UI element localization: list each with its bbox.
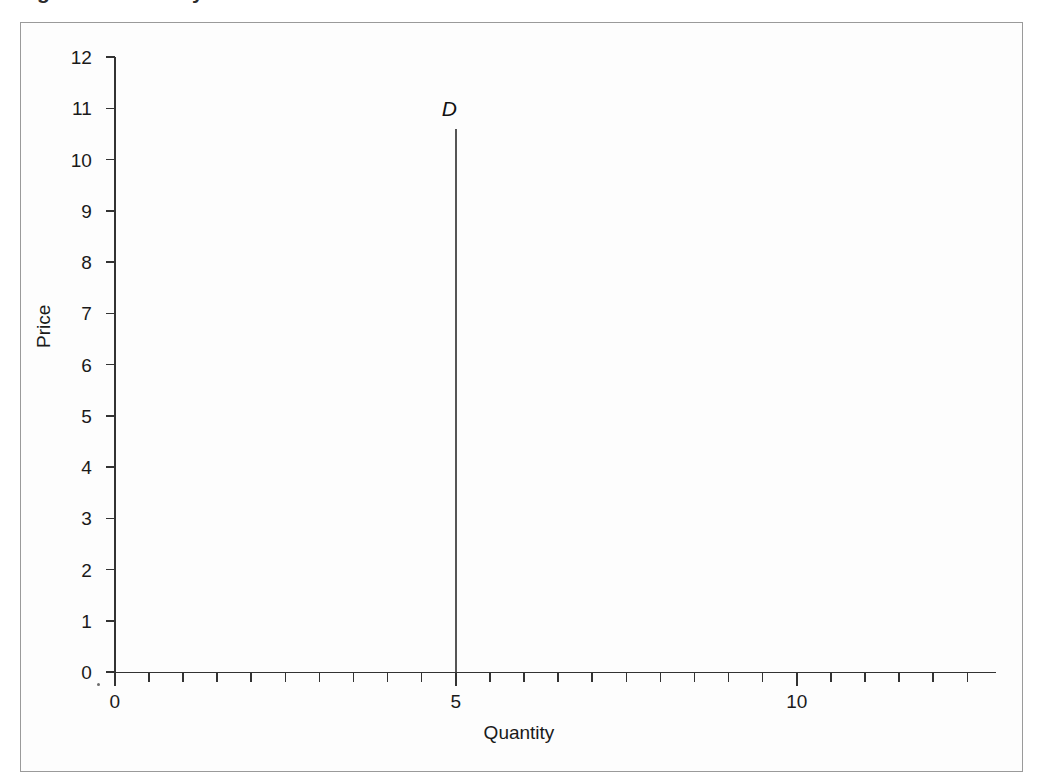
y-axis-tick: [106, 313, 115, 315]
demand-curve-line: [455, 129, 457, 672]
x-axis-tick-minor: [148, 673, 150, 682]
y-axis-tick: [106, 415, 115, 417]
x-axis-tick-label: 5: [451, 692, 462, 711]
x-axis-tick-minor: [250, 673, 252, 682]
demand-curve-label: D: [442, 97, 457, 121]
y-axis-tick: [106, 56, 115, 58]
x-axis-tick-major: [455, 673, 457, 686]
y-axis-tick-label: 6: [30, 356, 92, 375]
y-axis-tick: [106, 569, 115, 571]
x-axis-tick-minor: [353, 673, 355, 682]
x-axis-tick-minor: [182, 673, 184, 682]
y-axis-tick-label: 5: [30, 407, 92, 426]
y-axis-tick: [106, 364, 115, 366]
y-axis-tick-label: 4: [30, 458, 92, 477]
y-axis-tick: [106, 108, 115, 110]
print-speck: [97, 683, 100, 686]
y-axis-title: Price: [33, 305, 55, 348]
x-axis-tick-label: 10: [786, 692, 807, 711]
x-axis-title: Quantity: [0, 722, 1038, 744]
x-axis-tick-minor: [898, 673, 900, 682]
y-axis-tick-label: 11: [30, 99, 92, 118]
chart-plot-area: 0123456789101112 0510 D Quantity Price: [0, 0, 1038, 780]
y-axis-tick-label: 3: [30, 509, 92, 528]
y-axis-tick: [106, 210, 115, 212]
x-axis-tick-minor: [830, 673, 832, 682]
x-axis-tick-minor: [864, 673, 866, 682]
x-axis-tick-minor: [591, 673, 593, 682]
x-axis-tick-minor: [421, 673, 423, 682]
y-axis-tick-label: 12: [30, 48, 92, 67]
x-axis-tick-minor: [660, 673, 662, 682]
y-axis-tick-label: 8: [30, 253, 92, 272]
y-axis-tick-label: 0: [30, 663, 92, 682]
x-axis-tick-minor: [216, 673, 218, 682]
x-axis-tick-minor: [762, 673, 764, 682]
x-axis-tick-major: [796, 673, 798, 686]
x-axis-tick-minor: [694, 673, 696, 682]
x-axis-tick-minor: [967, 673, 969, 682]
x-axis-tick-minor: [319, 673, 321, 682]
y-axis-tick: [106, 159, 115, 161]
y-axis-tick: [106, 261, 115, 263]
x-axis-tick-minor: [387, 673, 389, 682]
y-axis-tick-label: 10: [30, 151, 92, 170]
x-axis-tick-minor: [932, 673, 934, 682]
y-axis-tick-label: 2: [30, 561, 92, 580]
x-axis-tick-major: [114, 673, 116, 686]
y-axis-tick-label: 9: [30, 202, 92, 221]
y-axis-tick: [106, 466, 115, 468]
y-axis-tick-label: 1: [30, 612, 92, 631]
y-axis-tick: [106, 620, 115, 622]
x-axis-tick-minor: [728, 673, 730, 682]
y-axis-tick: [106, 518, 115, 520]
x-axis-tick-minor: [626, 673, 628, 682]
x-axis-tick-minor: [285, 673, 287, 682]
x-axis-tick-label: 0: [110, 692, 121, 711]
x-axis-tick-minor: [489, 673, 491, 682]
x-axis-tick-minor: [557, 673, 559, 682]
x-axis-tick-minor: [523, 673, 525, 682]
